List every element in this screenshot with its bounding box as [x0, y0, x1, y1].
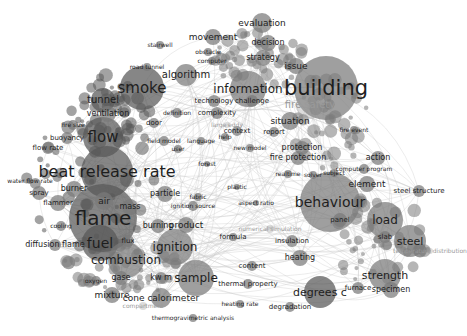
keyword-label[interactable]: gase: [111, 274, 130, 282]
keyword-label[interactable]: burning: [143, 222, 174, 230]
keyword-label[interactable]: furnace: [345, 285, 372, 292]
keyword-label[interactable]: content: [239, 263, 266, 270]
keyword-label[interactable]: complexity: [198, 110, 237, 117]
keyword-label[interactable]: steel: [397, 236, 424, 247]
keyword-label[interactable]: water flow rate: [7, 178, 52, 184]
keyword-label[interactable]: air: [98, 197, 110, 206]
keyword-label[interactable]: flow rate: [33, 145, 64, 152]
keyword-label[interactable]: degradation: [269, 304, 312, 311]
keyword-label[interactable]: technology: [195, 98, 234, 105]
keyword-label[interactable]: fuel: [87, 236, 113, 250]
keyword-label[interactable]: combustion: [91, 254, 161, 266]
keyword-label[interactable]: numerical simulation: [238, 226, 301, 232]
keyword-label[interactable]: spray: [29, 190, 48, 197]
keyword-label[interactable]: help: [219, 134, 232, 140]
keyword-label[interactable]: smoke: [118, 81, 167, 96]
keyword-label[interactable]: buoyancy: [50, 135, 84, 142]
keyword-label[interactable]: definition: [163, 110, 191, 116]
keyword-label[interactable]: tunnel: [87, 95, 119, 105]
keyword-label[interactable]: road tunnel: [130, 64, 165, 70]
keyword-label[interactable]: panel: [330, 217, 349, 224]
keyword-label[interactable]: door: [146, 120, 162, 127]
keyword-label[interactable]: new model: [234, 145, 267, 151]
keyword-label[interactable]: fire size: [61, 122, 84, 128]
keyword-label[interactable]: realtime: [276, 171, 301, 177]
keyword-label[interactable]: particle: [150, 190, 180, 198]
keyword-label[interactable]: behaviour: [295, 195, 365, 209]
keyword-label[interactable]: large eddy: [211, 122, 243, 128]
keyword-label[interactable]: algorithm: [162, 70, 210, 80]
keyword-label[interactable]: ignition source: [171, 203, 215, 209]
keyword-label[interactable]: steel structure: [394, 188, 445, 195]
keyword-label[interactable]: ignition: [153, 241, 198, 253]
keyword-label[interactable]: slab: [378, 234, 392, 241]
keyword-label[interactable]: fabric: [189, 194, 206, 200]
keyword-label[interactable]: decision: [252, 39, 285, 47]
keyword-label[interactable]: burner: [61, 185, 88, 193]
keyword-label[interactable]: ventilation: [87, 110, 130, 118]
keyword-label[interactable]: compartment: [123, 303, 164, 309]
keyword-label[interactable]: sample: [174, 272, 218, 284]
keyword-label[interactable]: fire protection: [270, 154, 326, 162]
keyword-label[interactable]: field model: [147, 138, 181, 144]
keyword-label[interactable]: evaluation: [238, 19, 285, 28]
keyword-label[interactable]: mixture: [95, 291, 130, 300]
keyword-label[interactable]: beat release rate: [38, 164, 175, 180]
keyword-label[interactable]: strength: [362, 270, 408, 281]
keyword-label[interactable]: diffusion flame: [25, 241, 84, 249]
keyword-label[interactable]: flammer: [43, 200, 73, 207]
keyword-label[interactable]: flame: [75, 208, 132, 228]
keyword-label[interactable]: formula: [220, 234, 247, 241]
keyword-label[interactable]: fire safety: [285, 100, 335, 110]
keyword-label[interactable]: heating rate: [222, 301, 259, 307]
keyword-label[interactable]: issue: [284, 62, 307, 71]
keyword-label[interactable]: forest: [198, 161, 215, 167]
keyword-label[interactable]: thermal property: [218, 281, 278, 288]
keyword-label[interactable]: thermogravimetric analysis: [152, 315, 234, 321]
keyword-label[interactable]: challenge: [235, 98, 269, 105]
keyword-label[interactable]: oxygen: [85, 278, 107, 284]
keyword-label[interactable]: solver: [304, 172, 322, 178]
keyword-label[interactable]: report: [263, 129, 284, 136]
keyword-label[interactable]: flow: [88, 130, 119, 145]
keyword-label[interactable]: degrees c: [293, 287, 347, 298]
keyword-label[interactable]: user: [171, 146, 184, 152]
keyword-label[interactable]: computer: [198, 58, 227, 64]
keyword-label[interactable]: product: [169, 221, 204, 230]
keyword-label[interactable]: stairwell: [147, 42, 172, 48]
keyword-label[interactable]: element: [348, 180, 385, 189]
keyword-label[interactable]: language: [187, 138, 215, 144]
keyword-label[interactable]: temperature distribution: [393, 248, 467, 254]
keyword-label[interactable]: specimen: [372, 286, 411, 294]
keyword-label[interactable]: action: [366, 154, 391, 162]
keyword-label[interactable]: insulation: [275, 238, 309, 245]
keyword-label[interactable]: cooling: [50, 223, 72, 229]
keyword-label[interactable]: protection: [282, 144, 323, 152]
keyword-label[interactable]: aspect ratio: [238, 200, 274, 206]
keyword-label[interactable]: obstacle: [195, 49, 220, 55]
keyword-label[interactable]: mass: [119, 203, 140, 211]
keyword-label[interactable]: subject: [323, 170, 345, 176]
keyword-label[interactable]: movement: [189, 33, 238, 42]
keyword-label[interactable]: flux: [122, 238, 135, 245]
keyword-label[interactable]: fire event: [340, 127, 369, 133]
keyword-label[interactable]: heating: [285, 254, 315, 262]
keyword-label[interactable]: building: [284, 78, 368, 99]
keyword-label[interactable]: information: [213, 83, 282, 95]
keyword-label[interactable]: kw m: [150, 274, 172, 282]
keyword-label[interactable]: plastic: [227, 184, 247, 190]
keyword-label[interactable]: situation: [270, 117, 309, 126]
keyword-label[interactable]: strategy: [246, 54, 279, 62]
keyword-label[interactable]: load: [372, 214, 398, 226]
